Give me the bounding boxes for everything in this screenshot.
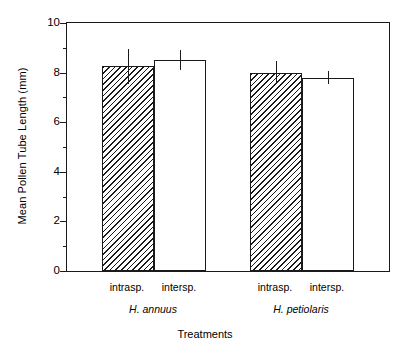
x-group-label-petiolaris: H. petiolaris [273,303,328,315]
x-group-label-annuus: H. annuus [129,303,177,315]
bar-chart-figure: Mean Pollen Tube Length (mm) 10 8 6 4 2 … [0,0,410,353]
x-tick-label-annuus-intrasp: intrasp. [110,281,144,293]
x-tick-label-petiolaris-intrasp: intrasp. [258,281,292,293]
x-tick-label-annuus-intersp: intersp. [162,281,196,293]
x-axis-title: Treatments [0,328,410,341]
x-tick-label-petiolaris-intersp: intersp. [310,281,344,293]
x-axis-labels: intrasp. intersp. intrasp. intersp. H. a… [0,0,410,353]
